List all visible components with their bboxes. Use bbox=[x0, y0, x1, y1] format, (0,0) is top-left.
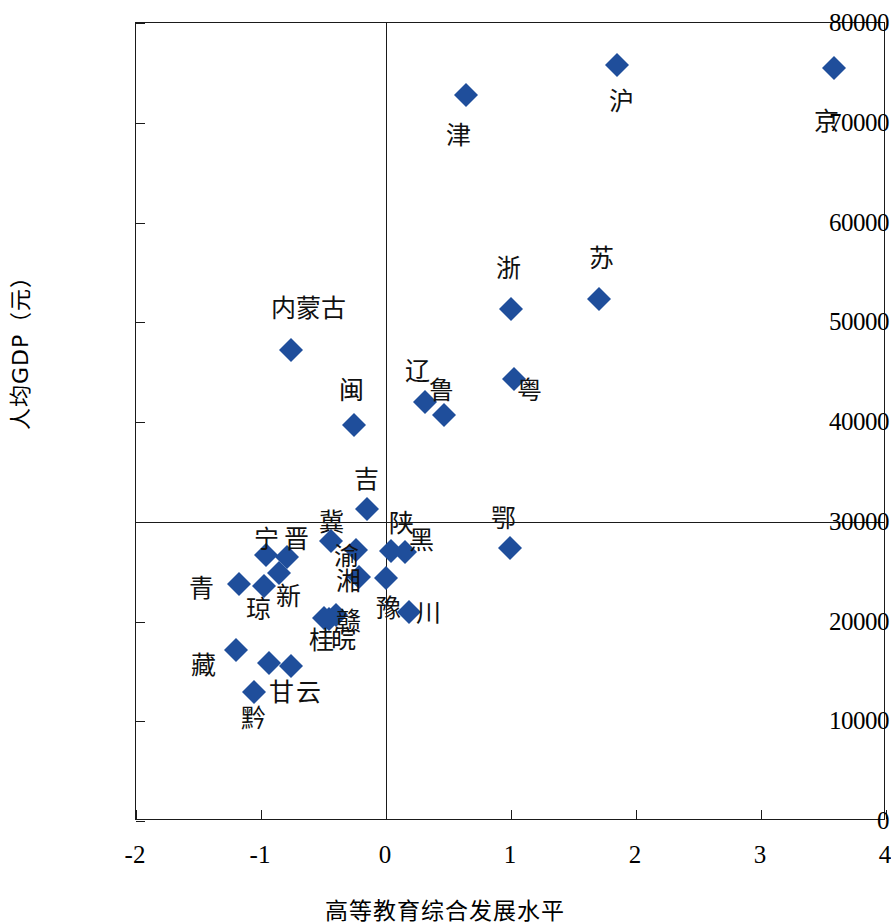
data-point-marker bbox=[241, 680, 265, 704]
y-tick-label: 30000 bbox=[768, 508, 889, 533]
x-tick-mark bbox=[386, 810, 387, 819]
data-point-label: 浙 bbox=[496, 256, 521, 281]
y-tick-mark bbox=[136, 821, 145, 822]
data-point-marker bbox=[355, 497, 379, 521]
data-point-label: 琼 bbox=[246, 596, 271, 621]
y-tick-label: 70000 bbox=[768, 109, 889, 134]
data-point-label: 湘 bbox=[336, 568, 361, 593]
data-point-label: 苏 bbox=[589, 246, 614, 271]
data-point-marker bbox=[226, 572, 250, 596]
x-tick-label: 0 bbox=[379, 842, 392, 867]
data-point-label: 吉 bbox=[354, 466, 379, 491]
x-tick-label: 1 bbox=[504, 842, 517, 867]
data-point-marker bbox=[499, 297, 523, 321]
y-tick-label: 10000 bbox=[768, 708, 889, 733]
data-point-marker bbox=[821, 56, 845, 80]
data-point-label: 黑 bbox=[409, 527, 434, 552]
data-point-label: 鄂 bbox=[491, 505, 516, 530]
data-point-label: 渝 bbox=[334, 543, 359, 568]
data-point-marker bbox=[374, 566, 398, 590]
data-point-label: 津 bbox=[446, 122, 471, 147]
x-tick-mark bbox=[511, 810, 512, 819]
data-point-marker bbox=[279, 338, 303, 362]
y-axis-title: 人均GDP（元） bbox=[2, 265, 34, 430]
y-tick-mark bbox=[136, 322, 145, 323]
data-point-label: 皖 bbox=[331, 627, 356, 652]
data-point-label: 黔 bbox=[241, 706, 266, 731]
y-tick-mark bbox=[136, 23, 145, 24]
data-point-label: 豫 bbox=[376, 595, 401, 620]
x-tick-label: -1 bbox=[250, 842, 271, 867]
data-point-marker bbox=[224, 638, 248, 662]
data-point-label: 内蒙古 bbox=[271, 296, 346, 321]
data-point-label: 藏 bbox=[191, 653, 216, 678]
y-tick-mark bbox=[136, 123, 145, 124]
y-tick-label: 20000 bbox=[768, 608, 889, 633]
reference-line-vertical bbox=[386, 23, 387, 819]
y-tick-mark bbox=[136, 522, 145, 523]
data-point-marker bbox=[454, 83, 478, 107]
data-point-marker bbox=[586, 287, 610, 311]
data-point-marker bbox=[256, 651, 280, 675]
data-point-label: 晋 bbox=[284, 526, 309, 551]
y-tick-label: 80000 bbox=[768, 10, 889, 35]
y-tick-mark bbox=[136, 223, 145, 224]
x-tick-mark bbox=[761, 810, 762, 819]
data-point-marker bbox=[605, 53, 629, 77]
data-point-label: 宁 bbox=[254, 526, 279, 551]
y-tick-label: 50000 bbox=[768, 309, 889, 334]
y-tick-mark bbox=[136, 422, 145, 423]
data-point-label: 闽 bbox=[339, 378, 364, 403]
x-tick-label: 4 bbox=[879, 842, 891, 867]
data-point-marker bbox=[279, 654, 303, 678]
x-tick-label: 3 bbox=[754, 842, 767, 867]
data-point-label: 辽 bbox=[405, 359, 430, 384]
data-point-marker bbox=[341, 413, 365, 437]
y-tick-label: 60000 bbox=[768, 209, 889, 234]
x-tick-label: -2 bbox=[125, 842, 146, 867]
data-point-label: 鲁 bbox=[429, 378, 454, 403]
data-point-label: 新 bbox=[276, 583, 301, 608]
y-tick-label: 0 bbox=[768, 808, 889, 833]
data-point-label: 川 bbox=[416, 600, 441, 625]
x-tick-mark bbox=[261, 810, 262, 819]
data-point-label: 桂 bbox=[309, 628, 334, 653]
data-point-label: 青 bbox=[189, 575, 214, 600]
data-point-marker bbox=[431, 403, 455, 427]
x-tick-label: 2 bbox=[629, 842, 642, 867]
y-tick-mark bbox=[136, 622, 145, 623]
data-point-label: 冀 bbox=[319, 509, 344, 534]
data-point-label: 云 bbox=[296, 680, 321, 705]
x-tick-mark bbox=[136, 810, 137, 819]
data-point-label: 粤 bbox=[517, 378, 542, 403]
y-tick-label: 40000 bbox=[768, 409, 889, 434]
data-point-label: 甘 bbox=[269, 680, 294, 705]
x-axis-title: 高等教育综合发展水平 bbox=[0, 892, 889, 923]
x-tick-mark bbox=[636, 810, 637, 819]
data-point-marker bbox=[498, 536, 522, 560]
y-tick-mark bbox=[136, 721, 145, 722]
data-point-label: 沪 bbox=[609, 88, 634, 113]
